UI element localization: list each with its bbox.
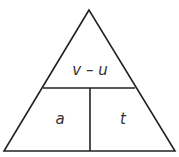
top-label: v – u: [60, 63, 120, 78]
bottom-left-label: a: [50, 112, 70, 127]
bottom-right-label: t: [113, 112, 133, 127]
